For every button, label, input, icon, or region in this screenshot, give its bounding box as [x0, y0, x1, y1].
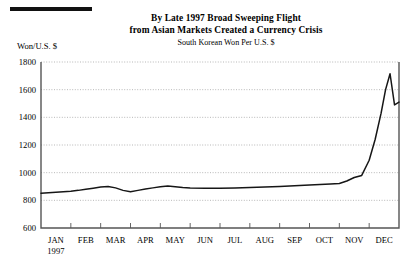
chart-figure: By Late 1997 Broad Sweeping Flight from … [0, 0, 416, 272]
y-tick-label: 1000 [19, 168, 36, 178]
y-tick-label: 800 [23, 195, 36, 205]
data-series-line [41, 74, 399, 193]
y-tick-label: 600 [23, 223, 36, 233]
x-month-label: DEC [375, 235, 392, 245]
x-month-label: NOV [345, 235, 364, 245]
x-month-label: AUG [255, 235, 274, 245]
y-tick-labels-group: 18001600140012001000800600 [19, 57, 36, 233]
x-month-label: SEP [287, 235, 302, 245]
x-month-label: OCT [316, 235, 334, 245]
y-tick-label: 1200 [19, 140, 36, 150]
gridlines-group [41, 62, 399, 200]
y-tick-label: 1800 [19, 57, 36, 67]
x-month-label: JUL [228, 235, 243, 245]
y-tick-label: 1400 [19, 112, 36, 122]
x-year-label: 1997 [47, 246, 65, 256]
x-month-label: FEB [78, 235, 94, 245]
x-month-label: MAR [106, 235, 126, 245]
y-tick-label: 1600 [19, 85, 36, 95]
x-month-label: APR [137, 235, 154, 245]
x-month-label: JUN [197, 235, 214, 245]
x-tick-marks-group [71, 223, 369, 228]
x-month-label: JAN [48, 235, 65, 245]
x-year-label-group: 1997 [47, 246, 65, 256]
x-month-label: MAY [166, 235, 185, 245]
x-month-labels-group: JANFEBMARAPRMAYJUNJULAUGSEPOCTNOVDEC [48, 235, 393, 245]
chart-plot-area: 18001600140012001000800600 JANFEBMARAPRM… [0, 0, 416, 272]
